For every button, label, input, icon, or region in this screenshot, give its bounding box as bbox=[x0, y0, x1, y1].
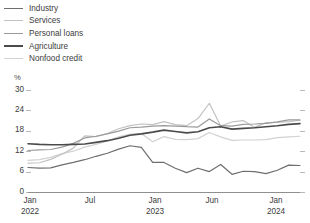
series-line-nonfood-credit bbox=[28, 133, 300, 161]
series-line-agriculture bbox=[28, 124, 300, 145]
series-line-personal-loans bbox=[28, 119, 300, 151]
line-chart: IndustryServicesPersonal loansAgricultur… bbox=[0, 0, 310, 223]
series-line-services bbox=[28, 103, 300, 163]
plot-area bbox=[0, 0, 310, 223]
